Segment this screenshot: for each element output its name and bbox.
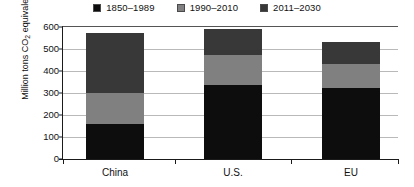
y-axis-title: Million tons CO2 equivalent: [20, 0, 31, 116]
bar-eu[interactable]: [322, 42, 380, 159]
bar-segment-1850-1989[interactable]: [86, 124, 144, 159]
y-axis-tick-label: 400: [43, 66, 59, 76]
legend-item-label: 1990–2010: [190, 3, 238, 13]
bar-u-s[interactable]: [204, 29, 262, 159]
bar-segment-1850-1989[interactable]: [204, 85, 262, 159]
y-axis-tick-label: 100: [43, 132, 59, 142]
bar-segment-1990-2010[interactable]: [204, 55, 262, 86]
y-axis-tick-mark: [59, 27, 63, 28]
x-axis-label-u-s: U.S.: [223, 167, 242, 179]
x-axis-label-china: China: [102, 167, 128, 179]
chart-legend: 1850–1989 1990–2010 2011–2030: [0, 3, 414, 13]
legend-item-1850-1989[interactable]: 1850–1989: [93, 3, 154, 13]
legend-item-label: 2011–2030: [273, 3, 321, 13]
x-axis-label-eu: EU: [344, 167, 358, 179]
y-axis-tick-mark: [59, 137, 63, 138]
y-axis-title-prefix: Million tons CO: [20, 39, 30, 100]
x-axis-line: [59, 159, 398, 160]
y-axis-tick-label: 600: [43, 22, 59, 32]
bar-china[interactable]: [86, 33, 144, 159]
y-axis-tick-label: 300: [43, 88, 59, 98]
y-axis-title-suffix: equivalent: [20, 0, 30, 35]
legend-swatch-icon: [177, 4, 185, 12]
y-axis-title-subscript: 2: [24, 35, 31, 39]
bar-segment-1990-2010[interactable]: [86, 93, 144, 124]
bar-segment-2011-2030[interactable]: [204, 29, 262, 54]
x-axis-tick-mark: [398, 159, 399, 164]
legend-swatch-icon: [260, 4, 268, 12]
plot-area: 0100200300400500600ChinaU.S.EU: [62, 26, 398, 159]
chart-container: 1850–1989 1990–2010 2011–2030 Million to…: [0, 0, 414, 187]
y-axis-tick-mark: [59, 93, 63, 94]
legend-item-2011-2030[interactable]: 2011–2030: [260, 3, 321, 13]
y-axis-tick-label: 500: [43, 44, 59, 54]
legend-item-label: 1850–1989: [106, 3, 154, 13]
bar-segment-1850-1989[interactable]: [322, 88, 380, 159]
y-axis-tick-mark: [59, 115, 63, 116]
legend-item-1990-2010[interactable]: 1990–2010: [177, 3, 238, 13]
bar-segment-2011-2030[interactable]: [86, 33, 144, 93]
bar-segment-2011-2030[interactable]: [322, 42, 380, 64]
legend-swatch-icon: [93, 4, 101, 12]
y-axis-tick-mark: [59, 49, 63, 50]
plot-inner: 0100200300400500600ChinaU.S.EU: [63, 27, 398, 159]
bar-segment-1990-2010[interactable]: [322, 64, 380, 88]
y-axis-tick-mark: [59, 71, 63, 72]
y-axis-tick-label: 200: [43, 110, 59, 120]
